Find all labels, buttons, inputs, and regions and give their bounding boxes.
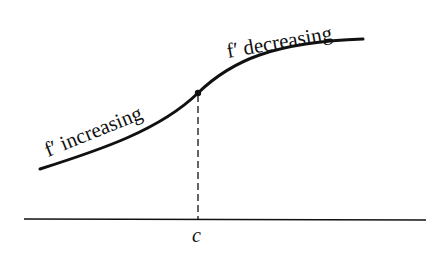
x-axis	[24, 219, 426, 220]
function-curve	[40, 39, 363, 169]
inflection-point-marker	[195, 90, 201, 96]
label-c: c	[192, 224, 201, 246]
label-f-prime-decreasing: f′ decreasing	[225, 21, 335, 63]
inflection-point-diagram: f′ increasing f′ decreasing c	[0, 0, 443, 253]
